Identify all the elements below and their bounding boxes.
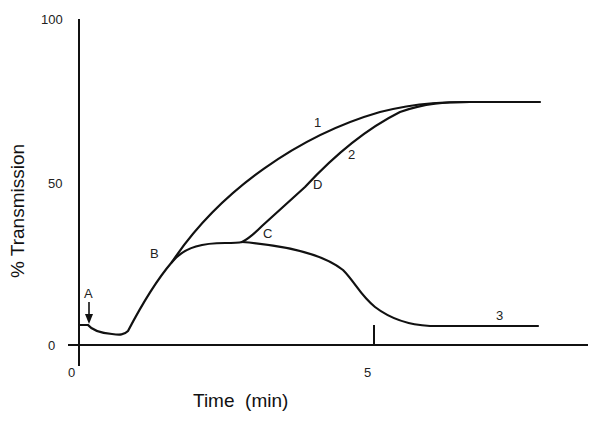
curve-3 — [242, 242, 538, 326]
curve-2 — [242, 102, 470, 242]
y-tick-0: 0 — [48, 338, 55, 353]
y-axis-title: % Transmission — [7, 144, 28, 278]
label-b: B — [150, 246, 159, 261]
y-tick-50: 50 — [48, 176, 62, 191]
label-curve-3: 3 — [496, 308, 503, 323]
x-tick-5: 5 — [364, 365, 371, 380]
curve-common-segment — [79, 262, 172, 335]
x-axis-title: Time (min) — [193, 390, 288, 411]
label-a: A — [84, 286, 93, 301]
transmission-chart: 100 50 0 0 5 % Transmission Time (min) A… — [0, 0, 597, 421]
curve-1 — [172, 102, 540, 262]
label-c: C — [263, 226, 272, 241]
label-curve-2: 2 — [348, 147, 355, 162]
label-curve-1: 1 — [314, 115, 321, 130]
x-tick-0: 0 — [68, 365, 75, 380]
label-d: D — [313, 177, 322, 192]
curve-plateau-segment — [172, 242, 242, 262]
arrow-down-icon — [85, 314, 93, 324]
y-tick-100: 100 — [41, 12, 63, 27]
